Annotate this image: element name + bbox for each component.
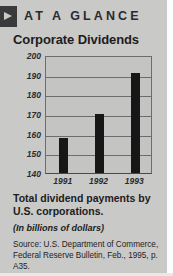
y-axis-tick-label: 170: [13, 110, 41, 120]
chart-bars: [46, 57, 151, 173]
y-axis-tick-label: 160: [13, 130, 41, 140]
bar: [59, 138, 68, 173]
infographic-header: AT A GLANCE: [0, 6, 167, 29]
page-margin-right: [167, 0, 173, 276]
page-title: Corporate Dividends: [13, 32, 139, 47]
y-axis-tick-label: 140: [13, 169, 41, 179]
y-axis-tick-label: 190: [13, 71, 41, 81]
at-a-glance-infographic: AT A GLANCE Corporate Dividends 20019018…: [0, 0, 173, 276]
y-axis-tick-label: 180: [13, 90, 41, 100]
x-axis-tick-label: 1993: [125, 176, 144, 186]
chart-plot-area: [45, 56, 152, 174]
y-axis-tick-label: 150: [13, 149, 41, 159]
bar: [95, 114, 104, 173]
y-axis-tick-label: 200: [13, 51, 41, 61]
bar-chart: 200190180170160150140 199119921993: [13, 56, 161, 192]
kicker-label: AT A GLANCE: [24, 9, 142, 23]
x-axis-tick-label: 1992: [89, 176, 108, 186]
chart-units-label: (In billions of dollars): [13, 223, 161, 233]
chart-source-note: Source: U.S. Department of Commerce, Fed…: [13, 240, 163, 273]
triangle-right-icon: [0, 6, 17, 27]
x-axis-tick-label: 1991: [53, 176, 72, 186]
bar: [131, 73, 140, 173]
chart-caption: Total dividend payments by U.S. corporat…: [13, 192, 161, 218]
